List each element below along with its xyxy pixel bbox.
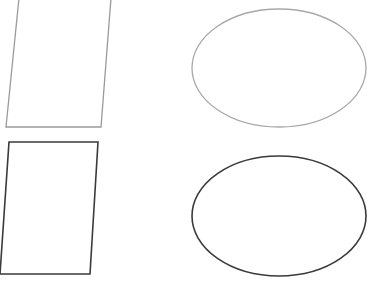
dark-ellipse — [192, 156, 366, 276]
shapes-canvas — [0, 0, 383, 299]
dark-parallelogram — [0, 142, 98, 274]
light-parallelogram — [6, 0, 111, 127]
light-ellipse — [192, 9, 366, 127]
